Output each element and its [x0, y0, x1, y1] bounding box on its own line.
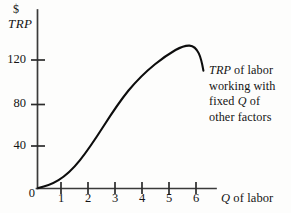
annotation-line-3-post: of — [247, 94, 261, 108]
x-tick-label-2: 2 — [82, 191, 94, 206]
y-tick-label-120: 120 — [0, 52, 26, 67]
x-axis-title: Q of labor — [221, 191, 273, 206]
annotation-line-1: TRP of labor — [209, 63, 291, 79]
x-tick-label-4: 4 — [136, 191, 148, 206]
x-tick-label-1: 1 — [55, 191, 67, 206]
trp-curve — [38, 46, 203, 188]
chart-figure: $ TRP 120 80 40 0 1 2 3 4 5 6 Q of labor… — [0, 0, 291, 213]
y-tick-label-80: 80 — [0, 96, 26, 111]
x-tick-label-5: 5 — [163, 191, 175, 206]
x-axis-title-rest: of labor — [230, 191, 273, 205]
x-axis-title-symbol: Q — [221, 191, 230, 205]
annotation-trp-symbol: TRP — [209, 63, 231, 77]
y-axis-name-label: TRP — [8, 16, 32, 32]
annotation-line-1-rest: of labor — [231, 63, 273, 77]
annotation-line-3-pre: fixed — [209, 94, 238, 108]
annotation-line-3: fixed Q of — [209, 94, 291, 110]
y-tick-label-0: 0 — [9, 186, 35, 201]
y-tick-label-40: 40 — [0, 138, 26, 153]
y-axis-unit-label: $ — [13, 2, 19, 17]
annotation-line-2: working with — [209, 79, 291, 95]
x-tick-label-3: 3 — [109, 191, 121, 206]
annotation-line-4: other factors — [209, 110, 291, 126]
curve-annotation: TRP of labor working with fixed Q of oth… — [209, 63, 291, 125]
x-tick-label-6: 6 — [190, 191, 202, 206]
annotation-q-symbol: Q — [238, 94, 247, 108]
